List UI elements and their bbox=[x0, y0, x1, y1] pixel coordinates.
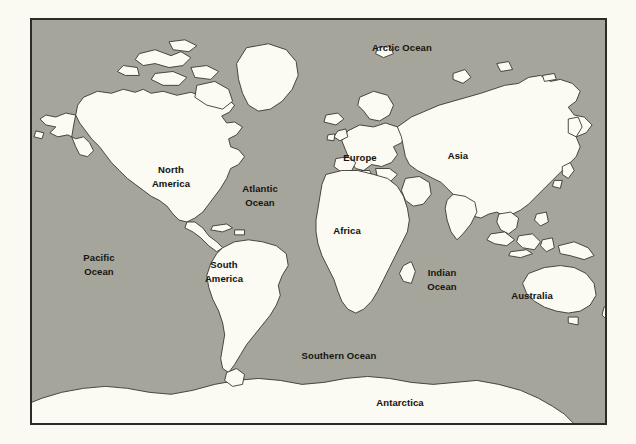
landmass-caribbean-2 bbox=[235, 230, 245, 235]
landmass-arctic-islands-2 bbox=[151, 71, 187, 85]
landmass-madagascar bbox=[399, 262, 415, 284]
landmass-arctic-islands-5 bbox=[169, 40, 197, 52]
landmass-iceland bbox=[324, 113, 344, 125]
world-map-figure: Arctic Ocean NorthAmerica AtlanticOcean … bbox=[0, 0, 636, 444]
landmass-arctic-islands-1 bbox=[135, 50, 191, 68]
landmass-arctic-islands-4 bbox=[117, 66, 139, 76]
landmass-arabia bbox=[401, 176, 431, 206]
landmass-aleutians bbox=[34, 131, 44, 139]
landmass-new-guinea bbox=[558, 242, 594, 260]
landmass-tasmania bbox=[568, 317, 578, 325]
map-frame: Arctic Ocean NorthAmerica AtlanticOcean … bbox=[30, 18, 607, 425]
world-map-svg bbox=[32, 20, 605, 423]
landmass-sulawesi bbox=[540, 238, 554, 252]
landmass-south-america bbox=[207, 240, 288, 373]
landmass-caribbean-1 bbox=[211, 224, 233, 232]
landmass-indochina bbox=[497, 212, 519, 234]
landmass-philippines bbox=[534, 212, 548, 226]
landmass-new-zealand-south bbox=[602, 305, 605, 323]
landmass-scandinavia bbox=[358, 91, 394, 121]
landmass-novaya-zemlya bbox=[453, 70, 471, 84]
landmass-ireland bbox=[327, 134, 335, 141]
landmass-india bbox=[445, 194, 477, 240]
landmass-svalbard bbox=[376, 46, 394, 58]
landmass-greenland bbox=[237, 44, 299, 111]
landmass-africa bbox=[316, 171, 409, 314]
landmass-borneo bbox=[517, 234, 541, 250]
landmass-arctic-islands-3 bbox=[191, 66, 219, 80]
landmass-arctic-island-asia-2 bbox=[542, 73, 556, 81]
landmass-north-america bbox=[76, 89, 245, 222]
landmass-australia bbox=[523, 266, 596, 314]
landmass-arctic-island-asia-1 bbox=[497, 62, 513, 72]
landmass-sumatra bbox=[487, 232, 515, 246]
landmass-japan-south bbox=[552, 180, 562, 188]
landmass-java bbox=[509, 250, 533, 258]
landmass-antarctica bbox=[32, 376, 605, 423]
